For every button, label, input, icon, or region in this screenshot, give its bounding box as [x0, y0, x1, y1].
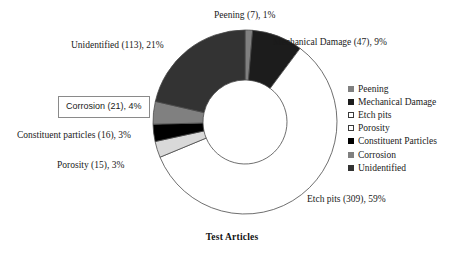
- legend-swatch-icon: [348, 112, 354, 118]
- legend-item-label: Porosity: [358, 123, 390, 133]
- donut-slice-unidentified: [155, 30, 245, 113]
- legend-item-corrosion[interactable]: Corrosion: [348, 148, 460, 161]
- callout-unidentified: Unidentified (113), 21%: [71, 40, 164, 51]
- callout-peening-text: Peening (7), 1%: [214, 10, 275, 20]
- legend-swatch-icon: [348, 125, 354, 131]
- pie-chart-figure: Peening (7), 1% Mechanical Damage (47), …: [0, 0, 464, 257]
- legend-item-label: Unidentified: [358, 163, 406, 173]
- callout-porosity: Porosity (15), 3%: [57, 160, 124, 171]
- legend-item-unidentified[interactable]: Unidentified: [348, 161, 460, 174]
- legend-item-label: Constituent Particles: [358, 136, 437, 146]
- legend-item-mechanical-damage[interactable]: Mechanical Damage: [348, 95, 460, 108]
- legend-swatch-icon: [348, 165, 354, 171]
- legend-item-constituent-particles[interactable]: Constituent Particles: [348, 135, 460, 148]
- chart-legend: PeeningMechanical DamageEtch pitsPorosit…: [348, 82, 460, 174]
- legend-swatch-icon: [348, 152, 354, 158]
- donut-slices: [153, 30, 337, 214]
- legend-swatch-icon: [348, 138, 354, 144]
- legend-item-label: Peening: [358, 84, 389, 94]
- legend-item-label: Corrosion: [358, 150, 396, 160]
- callout-etch-pits-text: Etch pits (309), 59%: [307, 194, 386, 204]
- legend-item-label: Etch pits: [358, 110, 392, 120]
- chart-title: Test Articles: [0, 232, 464, 242]
- callout-mechanical-damage-text: Mechanical Damage (47), 9%: [273, 37, 387, 47]
- callout-etch-pits: Etch pits (309), 59%: [307, 194, 386, 205]
- legend-item-porosity[interactable]: Porosity: [348, 122, 460, 135]
- callout-corrosion-boxed: Corrosion (21), 4%: [58, 96, 150, 118]
- callout-mechanical-damage: Mechanical Damage (47), 9%: [273, 37, 387, 48]
- legend-item-label: Mechanical Damage: [358, 97, 436, 107]
- callout-constituent-particles: Constituent particles (16), 3%: [17, 130, 131, 141]
- legend-item-peening[interactable]: Peening: [348, 82, 460, 95]
- legend-item-etch-pits[interactable]: Etch pits: [348, 108, 460, 121]
- callout-constituent-particles-text: Constituent particles (16), 3%: [17, 130, 131, 140]
- legend-swatch-icon: [348, 99, 354, 105]
- callout-unidentified-text: Unidentified (113), 21%: [71, 40, 164, 50]
- callout-corrosion-text: Corrosion (21), 4%: [66, 101, 142, 111]
- legend-swatch-icon: [348, 86, 354, 92]
- callout-peening: Peening (7), 1%: [214, 10, 275, 21]
- callout-porosity-text: Porosity (15), 3%: [57, 160, 124, 170]
